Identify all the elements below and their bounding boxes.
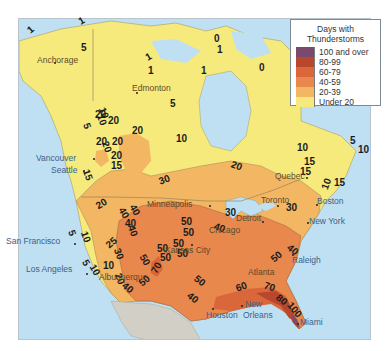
isoline-label: 15 xyxy=(111,161,122,171)
isoline-label: 10 xyxy=(358,145,369,155)
city-dot xyxy=(277,205,279,207)
city-dot xyxy=(307,222,309,224)
legend-swatch xyxy=(296,87,315,97)
city-dot xyxy=(74,243,76,245)
city-dot xyxy=(316,204,318,206)
city-label: Toronto xyxy=(261,196,289,205)
isoline-label: 5 xyxy=(81,43,87,53)
city-label: Edmonton xyxy=(132,84,171,93)
legend-item-80-99: 80-99 xyxy=(296,57,341,67)
isoline-label: 20 xyxy=(108,116,119,126)
city-label: Chicago xyxy=(209,226,240,235)
city-label: Minneapolis xyxy=(147,200,192,209)
city-label: Kansas City xyxy=(165,246,210,255)
isoline-label: 20 xyxy=(112,137,123,147)
city-dot xyxy=(241,305,243,307)
isoline-label: 5 xyxy=(170,99,176,109)
legend-swatch xyxy=(296,47,315,57)
city-label: New xyxy=(245,300,262,309)
legend-item-100-and-over: 100 and over xyxy=(296,47,369,57)
city-label: Raleigh xyxy=(292,256,321,265)
legend-item-20-39: 20-39 xyxy=(296,87,341,97)
city-label: Orleans xyxy=(243,311,273,320)
city-dot xyxy=(191,244,193,246)
legend-title: Days with Thunderstorms xyxy=(291,24,380,44)
legend-swatch xyxy=(296,67,315,77)
city-label: New York xyxy=(309,217,345,226)
city-dot xyxy=(212,308,214,310)
isoline-label: 50 xyxy=(183,228,194,238)
legend-swatch xyxy=(296,77,315,87)
city-label: Boston xyxy=(317,197,343,206)
city-label: Quebec xyxy=(275,172,305,181)
isoline-label: 40 xyxy=(125,219,136,229)
isoline-label: 1 xyxy=(201,66,207,76)
city-label: Miami xyxy=(300,318,323,327)
city-dot xyxy=(86,273,88,275)
legend-swatch xyxy=(296,97,315,107)
city-label: Seattle xyxy=(51,166,77,175)
isoline-label: 50 xyxy=(181,217,192,227)
city-dot xyxy=(306,177,308,179)
city-label: Atlanta xyxy=(248,268,274,277)
legend-item-60-79: 60-79 xyxy=(296,67,341,77)
city-label: Vancouver xyxy=(36,154,76,163)
isoline-label: 20 xyxy=(132,126,143,136)
city-dot xyxy=(136,92,138,94)
city-label: Albuquerque xyxy=(99,273,147,282)
city-label: Houston xyxy=(206,311,238,320)
city-label: Detroit xyxy=(236,214,261,223)
city-dot xyxy=(83,170,85,172)
legend: Days with Thunderstorms 100 and over 80-… xyxy=(290,19,381,106)
city-label: San Francisco xyxy=(6,237,60,246)
isoline-label: 15 xyxy=(334,178,345,188)
isoline-label: 1 xyxy=(217,45,223,55)
legend-item-40-59: 40-59 xyxy=(296,77,341,87)
isoline-label: 1 xyxy=(148,66,154,76)
city-dot xyxy=(297,323,299,325)
city-label: Anchorage xyxy=(37,56,78,65)
isoline-label: 10 xyxy=(297,143,308,153)
city-dot xyxy=(292,254,294,256)
city-dot xyxy=(209,205,211,207)
legend-item-under-20: Under 20 xyxy=(296,97,354,107)
city-dot xyxy=(93,158,95,160)
isoline-label: 0 xyxy=(214,34,220,44)
isoline-label: 10 xyxy=(176,134,187,144)
isoline-label: 5 xyxy=(350,136,356,146)
legend-swatch xyxy=(296,57,315,67)
city-dot xyxy=(54,62,56,64)
isoline-label: 10 xyxy=(103,261,114,271)
city-dot xyxy=(262,221,264,223)
isoline-label: 30 xyxy=(225,208,236,218)
city-label: Los Angeles xyxy=(26,265,72,274)
isoline-label: 0 xyxy=(259,63,265,73)
